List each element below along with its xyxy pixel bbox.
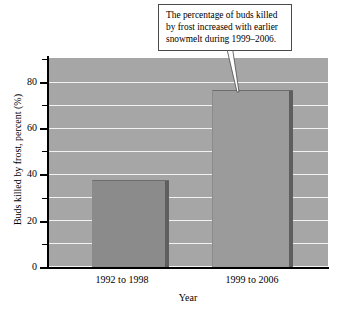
y-axis-line (47, 56, 49, 269)
x-axis-title: Year (48, 292, 328, 303)
y-tick-major (40, 128, 47, 130)
plot-area (48, 58, 328, 267)
gridline (48, 82, 328, 83)
callout-leader-line (210, 45, 260, 95)
y-axis-title: Buds killed by frost, percent (%) (12, 70, 23, 250)
bar-chart-figure: 0 20 40 60 80 Buds killed by frost, perc… (0, 0, 342, 312)
bar-shadow (165, 181, 169, 267)
y-tick-major (40, 82, 47, 84)
y-tick-minor (42, 244, 47, 245)
x-axis-line (47, 267, 329, 269)
x-category-label-2: 1999 to 2006 (192, 274, 312, 285)
bar-1999-to-2006[interactable] (212, 90, 293, 267)
y-tick-minor (42, 105, 47, 106)
y-tick-minor (42, 198, 47, 199)
x-category-label-1: 1992 to 1998 (62, 274, 182, 285)
y-tick-major (40, 221, 47, 223)
bar-1992-to-1998[interactable] (92, 180, 169, 267)
y-tick-label-0: 0 (0, 262, 37, 272)
y-tick-minor (42, 151, 47, 152)
y-tick-major (40, 174, 47, 176)
bar-shadow (289, 91, 293, 267)
y-tick-major (40, 267, 47, 269)
y-tick-minor (42, 59, 47, 60)
callout-annotation-box: The percentage of buds killed by frost i… (158, 4, 292, 51)
callout-text: The percentage of buds killed by frost i… (166, 10, 278, 44)
